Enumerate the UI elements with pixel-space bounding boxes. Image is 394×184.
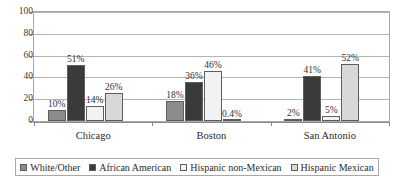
bar [185, 82, 203, 121]
x-category-label: Boston [152, 130, 270, 142]
legend-label: African American [99, 162, 171, 173]
legend-label: White/Other [30, 162, 80, 173]
legend-swatch-icon [89, 164, 96, 171]
legend-item[interactable]: African American [89, 162, 171, 173]
bar [322, 116, 340, 121]
bar-chart: 020406080100 10%51%14%26%18%36%46%0.4%2%… [0, 0, 394, 184]
legend-swatch-icon [180, 164, 187, 171]
chart-legend: White/OtherAfrican AmericanHispanic non-… [15, 158, 379, 176]
bar [105, 93, 123, 121]
x-axis-line [33, 122, 390, 123]
bar [223, 119, 241, 121]
x-category-label: Chicago [34, 130, 152, 142]
bar-group: 10%51%14%26% [34, 12, 152, 121]
legend-label: Hispanic Mexican [301, 162, 374, 173]
x-tick-mark [271, 122, 272, 126]
legend-item[interactable]: Hispanic Mexican [291, 162, 374, 173]
bar-value-label: 46% [196, 60, 230, 70]
x-tick-mark [152, 122, 153, 126]
bars-layer: 10%51%14%26%18%36%46%0.4%2%41%5%52% [34, 12, 389, 121]
legend-label: Hispanic non-Mexican [190, 162, 281, 173]
y-axis: 020406080100 [0, 11, 33, 122]
x-tick-mark [389, 122, 390, 126]
bar-value-label: 0.4% [215, 109, 249, 119]
legend-item[interactable]: Hispanic non-Mexican [180, 162, 281, 173]
bar [284, 119, 302, 121]
bar-value-label: 26% [97, 82, 131, 92]
bar [166, 101, 184, 121]
bar-value-label: 51% [59, 54, 93, 64]
bar [86, 106, 104, 121]
bar [67, 65, 85, 121]
legend-swatch-icon [20, 164, 27, 171]
bar-group: 18%36%46%0.4% [152, 12, 270, 121]
bar-value-label: 41% [295, 65, 329, 75]
legend-item[interactable]: White/Other [20, 162, 80, 173]
bar-value-label: 52% [333, 53, 367, 63]
bar [341, 64, 359, 121]
bar [48, 110, 66, 121]
bar-group: 2%41%5%52% [271, 12, 389, 121]
legend-swatch-icon [291, 164, 298, 171]
x-category-label: San Antonio [271, 130, 389, 142]
x-tick-mark [34, 122, 35, 126]
